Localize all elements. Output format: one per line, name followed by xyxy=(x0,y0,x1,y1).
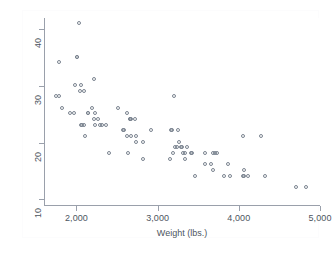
data-point-marker xyxy=(77,21,81,25)
data-point-marker xyxy=(90,106,94,110)
data-point-marker xyxy=(73,83,77,87)
x-axis-tick-label: 5,000 xyxy=(296,213,336,223)
x-axis-title: Weight (lbs.) xyxy=(44,228,320,238)
y-axis-line xyxy=(44,18,45,205)
x-axis-tick xyxy=(320,206,321,211)
data-point-marker xyxy=(241,134,245,138)
data-point-marker xyxy=(190,151,194,155)
data-point-marker xyxy=(222,174,226,178)
x-axis-tick-label: 2,000 xyxy=(52,213,100,223)
y-axis-title: Mileage (mpg) xyxy=(14,0,26,30)
data-point-marker xyxy=(133,117,137,121)
data-point-marker xyxy=(304,185,308,189)
data-point-marker xyxy=(78,89,82,93)
data-point-marker xyxy=(242,174,246,178)
data-point-marker xyxy=(125,134,129,138)
data-point-marker xyxy=(228,174,232,178)
x-axis-tick xyxy=(158,206,159,211)
data-point-marker xyxy=(75,55,79,59)
y-axis-tick-label: 10 xyxy=(33,198,43,228)
y-axis-tick-label: 30 xyxy=(33,85,43,115)
y-axis-tick-label: 20 xyxy=(33,142,43,172)
data-point-marker xyxy=(93,123,97,127)
x-axis-tick-label: 4,000 xyxy=(215,213,263,223)
data-point-marker xyxy=(211,168,215,172)
data-point-marker xyxy=(141,157,145,161)
x-axis-tick xyxy=(76,206,77,211)
data-point-marker xyxy=(263,174,267,178)
x-axis-tick-label: 3,000 xyxy=(134,213,182,223)
data-point-marker xyxy=(60,106,64,110)
y-axis-tick-label: 40 xyxy=(33,28,43,58)
data-point-marker xyxy=(193,174,197,178)
data-point-marker xyxy=(107,151,111,155)
data-point-marker xyxy=(215,151,219,155)
data-point-marker xyxy=(116,106,120,110)
data-point-marker xyxy=(171,151,175,155)
plot-area xyxy=(44,18,320,205)
data-point-marker xyxy=(141,140,145,144)
data-point-marker xyxy=(183,157,187,161)
x-axis-tick xyxy=(239,206,240,211)
data-point-marker xyxy=(104,123,108,127)
x-axis-line xyxy=(44,205,320,206)
